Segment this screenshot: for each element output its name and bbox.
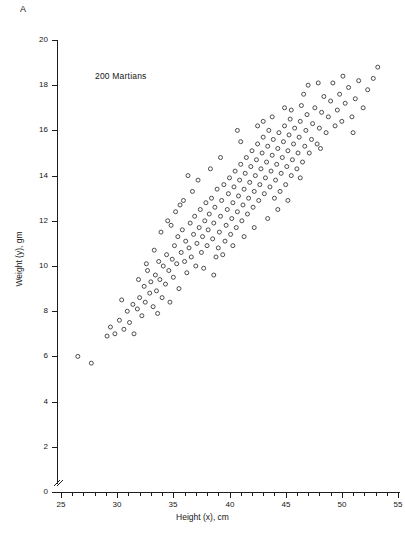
data-point xyxy=(340,119,344,123)
data-point xyxy=(120,298,124,302)
data-point xyxy=(135,307,139,311)
data-point xyxy=(235,128,239,132)
data-point xyxy=(170,257,174,261)
data-point xyxy=(179,250,183,254)
data-point xyxy=(320,110,324,114)
data-point xyxy=(204,201,208,205)
data-point xyxy=(231,201,235,205)
data-point xyxy=(248,180,252,184)
data-point xyxy=(366,88,370,92)
data-point xyxy=(305,113,309,117)
data-point xyxy=(153,273,157,277)
data-point xyxy=(197,226,201,230)
data-point xyxy=(299,104,303,108)
data-point xyxy=(131,302,135,306)
data-point xyxy=(184,239,188,243)
data-point xyxy=(298,176,302,180)
data-point xyxy=(132,332,136,336)
data-point xyxy=(251,205,255,209)
scatter-plot: A 200 Martians Weight (y), gm Height (x)… xyxy=(0,0,405,534)
data-point xyxy=(249,165,253,169)
data-point xyxy=(183,259,187,263)
data-point xyxy=(210,196,214,200)
data-point xyxy=(310,137,314,141)
data-point xyxy=(276,146,280,150)
data-point xyxy=(315,142,319,146)
data-point xyxy=(269,169,273,173)
data-point xyxy=(243,171,247,175)
data-point xyxy=(217,230,221,234)
data-point xyxy=(245,212,249,216)
data-point xyxy=(280,156,284,160)
data-point xyxy=(199,250,203,254)
data-point xyxy=(261,119,265,123)
data-point xyxy=(230,217,234,221)
data-point xyxy=(76,354,80,358)
data-point xyxy=(234,226,238,230)
data-point xyxy=(239,162,243,166)
data-point xyxy=(117,318,121,322)
data-point xyxy=(194,264,198,268)
data-point xyxy=(193,214,197,218)
data-point xyxy=(177,287,181,291)
data-point xyxy=(252,189,256,193)
data-point xyxy=(105,334,109,338)
data-point xyxy=(278,189,282,193)
data-point xyxy=(260,151,264,155)
data-point xyxy=(202,266,206,270)
data-point xyxy=(178,203,182,207)
data-point xyxy=(138,296,142,300)
data-point xyxy=(165,253,169,257)
data-point xyxy=(181,198,185,202)
data-point xyxy=(198,208,202,212)
data-point xyxy=(371,76,375,80)
data-point xyxy=(247,196,251,200)
data-point xyxy=(172,244,176,248)
data-point xyxy=(189,255,193,259)
data-point xyxy=(239,140,243,144)
data-point xyxy=(224,223,228,227)
data-point xyxy=(203,219,207,223)
data-point xyxy=(331,81,335,85)
data-point xyxy=(333,124,337,128)
data-point xyxy=(175,262,179,266)
data-point xyxy=(350,115,354,119)
data-point xyxy=(154,289,158,293)
data-point xyxy=(252,226,256,230)
data-point xyxy=(212,273,216,277)
data-point xyxy=(263,176,267,180)
data-point xyxy=(125,309,129,313)
data-point xyxy=(351,131,355,135)
data-point xyxy=(159,230,163,234)
data-point xyxy=(317,126,321,130)
data-point xyxy=(297,135,301,139)
data-point xyxy=(279,171,283,175)
data-point xyxy=(303,144,307,148)
data-point xyxy=(186,174,190,178)
data-point xyxy=(311,122,315,126)
data-point xyxy=(292,142,296,146)
data-point xyxy=(122,327,126,331)
data-point xyxy=(283,106,287,110)
data-point xyxy=(296,151,300,155)
data-point xyxy=(271,137,275,141)
data-point xyxy=(151,305,155,309)
data-point xyxy=(270,115,274,119)
data-point xyxy=(302,92,306,96)
data-point xyxy=(286,149,290,153)
data-point xyxy=(262,192,266,196)
data-point xyxy=(266,217,270,221)
data-point xyxy=(238,178,242,182)
data-point xyxy=(256,142,260,146)
data-point xyxy=(290,158,294,162)
data-point xyxy=(253,174,257,178)
data-point xyxy=(108,325,112,329)
data-point xyxy=(168,300,172,304)
data-point xyxy=(214,255,218,259)
data-point xyxy=(361,106,365,110)
data-point xyxy=(307,151,311,155)
data-point xyxy=(244,156,248,160)
data-point xyxy=(295,167,299,171)
data-point xyxy=(225,208,229,212)
data-point xyxy=(274,178,278,182)
